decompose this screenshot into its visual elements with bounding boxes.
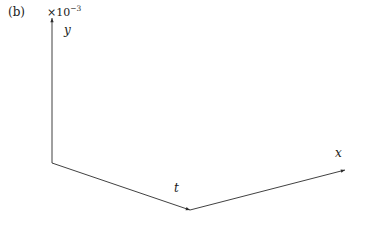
surface-plot-canvas: [0, 0, 368, 239]
y-axis-label: y: [64, 24, 71, 36]
x-axis-label: x: [335, 147, 342, 159]
figure-panel: (b) ×10−3 y t x: [0, 0, 368, 239]
t-axis-label: t: [174, 182, 179, 194]
